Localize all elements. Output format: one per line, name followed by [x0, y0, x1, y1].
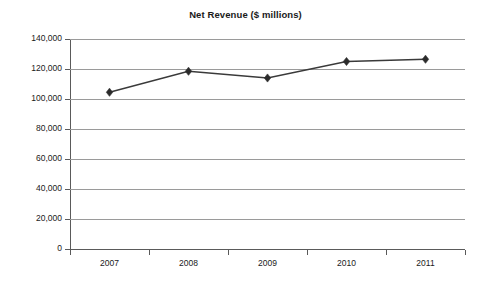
- y-axis-tick: [65, 69, 70, 70]
- x-axis-tick: [386, 250, 387, 255]
- y-axis-tick-label: 0: [14, 243, 62, 253]
- data-point-marker: [264, 74, 270, 82]
- x-axis-tick-label: 2008: [179, 258, 198, 268]
- y-axis-tick-label: 140,000: [14, 33, 62, 43]
- x-axis-tick-labels: 20072008200920102011: [70, 258, 465, 274]
- series-line-chart: [70, 39, 465, 249]
- y-axis-tick: [65, 219, 70, 220]
- y-axis-tick-labels: 020,00040,00060,00080,000100,000120,0001…: [12, 0, 62, 288]
- y-axis-tick: [65, 249, 70, 250]
- series-markers: [106, 55, 428, 96]
- data-point-marker: [185, 67, 191, 75]
- data-point-marker: [422, 55, 428, 63]
- x-axis-tick: [465, 250, 466, 255]
- y-axis-tick: [65, 159, 70, 160]
- plot-area: [70, 39, 465, 249]
- y-axis-tick-label: 100,000: [14, 93, 62, 103]
- x-axis-tick-label: 2007: [100, 258, 119, 268]
- chart-title: Net Revenue ($ millions): [0, 9, 491, 20]
- x-axis-tick: [307, 250, 308, 255]
- x-axis-tick-label: 2009: [258, 258, 277, 268]
- y-axis-tick-label: 120,000: [14, 63, 62, 73]
- y-axis-tick: [65, 129, 70, 130]
- y-axis-tick: [65, 39, 70, 40]
- data-point-marker: [106, 88, 112, 96]
- x-axis-tick-label: 2010: [337, 258, 356, 268]
- data-point-marker: [343, 57, 349, 65]
- x-axis-tick: [149, 250, 150, 255]
- x-axis-tick: [70, 250, 71, 255]
- y-axis-tick-label: 40,000: [14, 183, 62, 193]
- y-axis-tick-label: 80,000: [14, 123, 62, 133]
- y-axis-tick: [65, 99, 70, 100]
- chart-figure: Net Revenue ($ millions) 020,00040,00060…: [0, 0, 491, 288]
- x-axis-tick-label: 2011: [416, 258, 434, 268]
- x-axis-line-and-ticks: [70, 249, 465, 250]
- y-axis-tick: [65, 189, 70, 190]
- y-axis-tick-label: 20,000: [14, 213, 62, 223]
- y-axis-tick-label: 60,000: [14, 153, 62, 163]
- x-axis-tick: [228, 250, 229, 255]
